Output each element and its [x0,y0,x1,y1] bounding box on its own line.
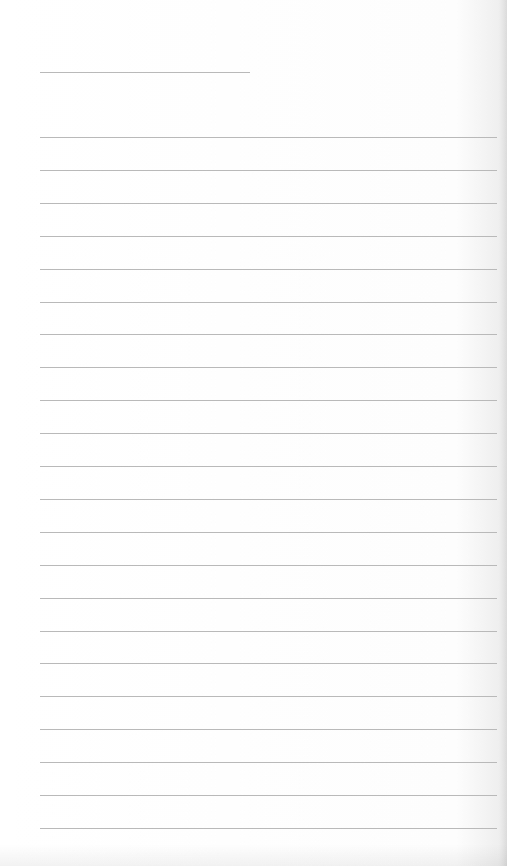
page-edge-shadow [499,0,507,866]
ruled-line [40,532,497,533]
header-line [40,72,250,73]
ruled-line [40,828,497,829]
ruled-line [40,499,497,500]
ruled-line [40,137,497,138]
ruled-line [40,433,497,434]
ruled-line [40,565,497,566]
ruled-line [40,631,497,632]
ruled-line [40,598,497,599]
ruled-line [40,795,497,796]
lined-paper-sheet [0,0,507,866]
ruled-line [40,696,497,697]
ruled-line [40,400,497,401]
ruled-line [40,170,497,171]
ruled-line [40,466,497,467]
page-bottom-shadow [0,844,507,866]
ruled-line [40,236,497,237]
ruled-line [40,334,497,335]
ruled-line [40,762,497,763]
ruled-line [40,203,497,204]
ruled-line [40,269,497,270]
ruled-line [40,302,497,303]
ruled-line [40,367,497,368]
ruled-line [40,663,497,664]
ruled-line [40,729,497,730]
